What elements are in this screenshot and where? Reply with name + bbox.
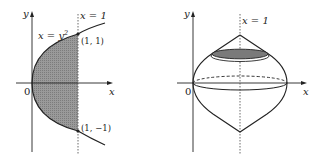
x-axis-arrow-icon — [301, 81, 307, 85]
cross-section-disk — [212, 49, 268, 59]
line-label: x = 1 — [80, 10, 107, 21]
x-axis-label: x — [109, 86, 115, 97]
point-bottom — [76, 129, 79, 132]
left-figure: y x 0 x = 1 x = y2 (1, 1) (1, −1) — [16, 8, 115, 154]
point-top-label: (1, 1) — [81, 36, 104, 46]
y-axis-label: y — [183, 8, 190, 19]
shaded-region — [32, 34, 78, 131]
curve-label: x = y2 — [38, 29, 68, 41]
right-figure: y x 0 x = 1 — [177, 8, 309, 154]
y-axis-arrow-icon — [30, 11, 34, 17]
origin-label: 0 — [24, 86, 30, 97]
curve-label-exponent: 2 — [63, 29, 68, 37]
point-bottom-label: (1, −1) — [81, 123, 111, 133]
x-axis-label: x — [303, 86, 309, 97]
point-top — [76, 32, 79, 35]
x-axis-arrow-icon — [107, 81, 113, 85]
line-label: x = 1 — [242, 15, 269, 26]
y-axis-label: y — [22, 8, 29, 19]
y-axis-arrow-icon — [191, 11, 195, 17]
origin-label: 0 — [185, 86, 191, 97]
